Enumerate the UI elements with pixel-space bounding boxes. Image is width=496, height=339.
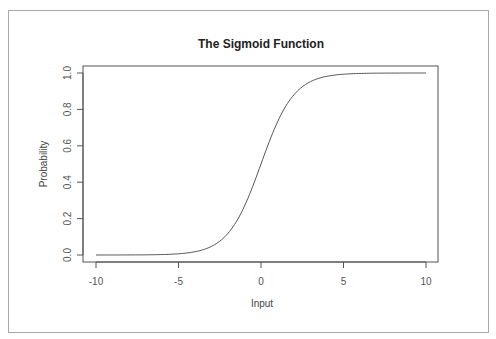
x-tick-label: 0: [258, 276, 264, 287]
chart-svg: The Sigmoid Function 0.00.20.40.60.81.0 …: [0, 0, 496, 339]
x-axis: -10-50510: [89, 262, 432, 287]
x-tick-label: 10: [420, 276, 432, 287]
x-tick-label: 5: [341, 276, 347, 287]
y-tick-label: 1.0: [62, 66, 73, 80]
y-axis: 0.00.20.40.60.81.0: [62, 66, 83, 262]
y-tick-label: 0.8: [62, 102, 73, 116]
y-tick-label: 0.0: [62, 248, 73, 262]
x-tick-label: -5: [174, 276, 183, 287]
x-axis-label: Input: [251, 298, 273, 309]
y-tick-label: 0.6: [62, 138, 73, 152]
y-tick-label: 0.4: [62, 175, 73, 189]
sigmoid-curve: [96, 73, 426, 255]
chart-title: The Sigmoid Function: [198, 37, 324, 51]
x-tick-label: -10: [89, 276, 104, 287]
y-axis-label: Probability: [38, 141, 49, 188]
y-tick-label: 0.2: [62, 211, 73, 225]
